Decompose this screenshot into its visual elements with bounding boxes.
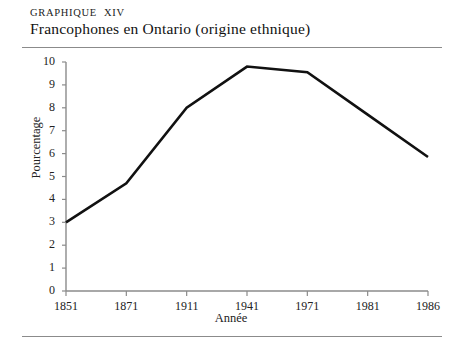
x-tick-label: 1851: [36, 299, 96, 314]
y-tick-label: 10: [33, 54, 55, 69]
y-tick-label: 4: [33, 191, 55, 206]
x-tick-label: 1871: [96, 299, 156, 314]
y-tick-label: 7: [33, 123, 55, 138]
x-tick-label: 1971: [277, 299, 337, 314]
chart-plot-area: Pourcentage Année 012345678910 185118711…: [0, 0, 462, 354]
y-tick-label: 5: [33, 169, 55, 184]
y-tick-label: 9: [33, 77, 55, 92]
y-tick-label: 6: [33, 146, 55, 161]
y-tick-label: 1: [33, 260, 55, 275]
chart-axes: [66, 62, 428, 291]
data-series-line: [66, 67, 428, 223]
x-tick-label: 1986: [398, 299, 458, 314]
figure: GRAPHIQUEXIV Francophones en Ontario (or…: [0, 0, 462, 354]
y-tick-label: 2: [33, 237, 55, 252]
y-tick-label: 0: [33, 283, 55, 298]
y-tick-label: 3: [33, 214, 55, 229]
x-tick-label: 1941: [217, 299, 277, 314]
x-tick-label: 1981: [338, 299, 398, 314]
x-axis-ticks: [66, 291, 428, 296]
x-tick-label: 1911: [157, 299, 217, 314]
y-tick-label: 8: [33, 100, 55, 115]
